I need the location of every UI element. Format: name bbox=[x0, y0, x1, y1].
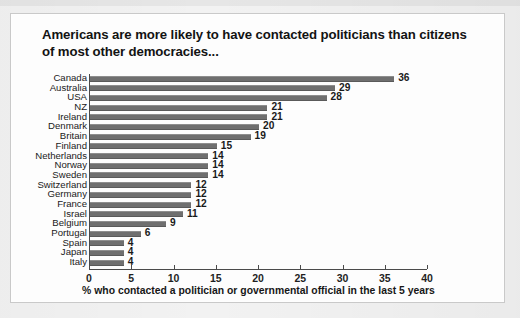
bar bbox=[90, 211, 183, 217]
bar bbox=[90, 221, 166, 227]
x-tick-label: 25 bbox=[294, 272, 306, 284]
bar bbox=[90, 124, 259, 130]
bar bbox=[90, 85, 335, 91]
plot-area: Canada36Australia29USA28NZ21Ireland21Den… bbox=[11, 14, 506, 304]
bar bbox=[90, 76, 394, 82]
bar bbox=[90, 231, 141, 237]
bar-value-label: 6 bbox=[145, 228, 151, 238]
bar-value-label: 9 bbox=[170, 218, 176, 228]
x-tick-label: 5 bbox=[128, 272, 134, 284]
x-tick bbox=[89, 265, 90, 269]
bar bbox=[90, 260, 124, 266]
page-background: Americans are more likely to have contac… bbox=[0, 0, 520, 318]
x-tick bbox=[258, 265, 259, 269]
bar bbox=[90, 182, 191, 188]
x-tick bbox=[300, 265, 301, 269]
bar-value-label: 28 bbox=[331, 92, 342, 102]
x-axis-line bbox=[89, 269, 427, 270]
x-tick-label: 10 bbox=[168, 272, 180, 284]
x-tick bbox=[427, 265, 428, 269]
x-tick bbox=[343, 265, 344, 269]
category-label: Italy bbox=[0, 257, 87, 267]
bar bbox=[90, 143, 217, 149]
bar bbox=[90, 163, 208, 169]
bar-value-label: 19 bbox=[255, 131, 266, 141]
x-tick-label: 20 bbox=[252, 272, 264, 284]
bar-rows: Canada36Australia29USA28NZ21Ireland21Den… bbox=[11, 74, 506, 268]
bar bbox=[90, 153, 208, 159]
bar bbox=[90, 134, 251, 140]
bar bbox=[90, 95, 327, 101]
x-tick-label: 35 bbox=[379, 272, 391, 284]
x-tick bbox=[216, 265, 217, 269]
bar bbox=[90, 114, 267, 120]
x-tick-label: 40 bbox=[421, 272, 433, 284]
bar-value-label: 36 bbox=[398, 73, 409, 83]
bar bbox=[90, 172, 208, 178]
chart-figure: Americans are more likely to have contac… bbox=[10, 13, 505, 303]
bar-value-label: 14 bbox=[212, 170, 223, 180]
x-tick-label: 0 bbox=[86, 272, 92, 284]
bar bbox=[90, 192, 191, 198]
bar bbox=[90, 250, 124, 256]
bar bbox=[90, 240, 124, 246]
x-tick-label: 30 bbox=[337, 272, 349, 284]
x-tick bbox=[385, 265, 386, 269]
x-tick bbox=[174, 265, 175, 269]
bar bbox=[90, 105, 267, 111]
bar-value-label: 11 bbox=[187, 209, 198, 219]
x-tick bbox=[131, 265, 132, 269]
x-axis-label: % who contacted a politician or governme… bbox=[11, 285, 506, 296]
x-tick-label: 15 bbox=[210, 272, 222, 284]
bar bbox=[90, 202, 191, 208]
